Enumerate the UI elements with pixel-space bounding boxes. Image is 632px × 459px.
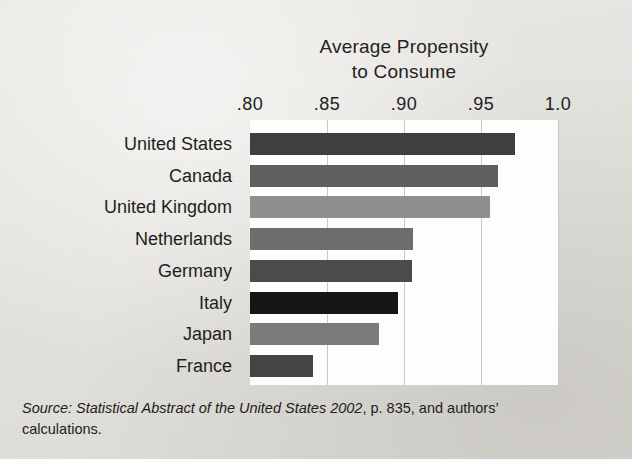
- category-label-germany: Germany: [158, 260, 232, 282]
- chart-title-line-1: Average Propensity: [250, 34, 558, 59]
- gridline-1.0: [558, 120, 559, 385]
- category-label-japan: Japan: [183, 323, 232, 345]
- bar-chart-figure: Average Propensity to Consume .80.85.90.…: [0, 0, 632, 459]
- bar-canada: [250, 165, 498, 187]
- x-tick-label-2: .90: [391, 94, 418, 115]
- bar-germany: [250, 260, 412, 282]
- category-label-france: France: [176, 355, 232, 377]
- category-axis-labels: United StatesCanadaUnited KingdomNetherl…: [0, 120, 242, 385]
- bar-italy: [250, 292, 398, 314]
- chart-title: Average Propensity to Consume: [250, 34, 558, 84]
- bar-france: [250, 355, 313, 377]
- chart-title-line-2: to Consume: [250, 59, 558, 84]
- source-page: , p. 835, and authors’: [362, 400, 498, 416]
- plot-area: [250, 120, 558, 385]
- gridline-.95: [481, 120, 482, 385]
- x-axis-tick-labels: .80.85.90.951.0: [0, 94, 632, 118]
- category-label-italy: Italy: [199, 292, 232, 314]
- bar-netherlands: [250, 228, 413, 250]
- gridline-.90: [404, 120, 405, 385]
- x-tick-label-0: .80: [237, 94, 264, 115]
- x-tick-label-4: 1.0: [545, 94, 572, 115]
- source-note: Source: Statistical Abstract of the Unit…: [22, 398, 612, 440]
- bar-united-kingdom: [250, 196, 490, 218]
- gridline-.85: [327, 120, 328, 385]
- category-label-netherlands: Netherlands: [135, 228, 232, 250]
- category-label-canada: Canada: [169, 165, 232, 187]
- bar-united-states: [250, 133, 515, 155]
- bar-japan: [250, 323, 379, 345]
- category-label-united-states: United States: [124, 133, 232, 155]
- source-line-2: calculations.: [22, 419, 612, 440]
- x-tick-label-1: .85: [314, 94, 341, 115]
- source-label: Source:: [22, 400, 72, 416]
- x-tick-label-3: .95: [468, 94, 495, 115]
- category-label-united-kingdom: United Kingdom: [104, 196, 232, 218]
- source-title: Statistical Abstract of the United State…: [76, 400, 362, 416]
